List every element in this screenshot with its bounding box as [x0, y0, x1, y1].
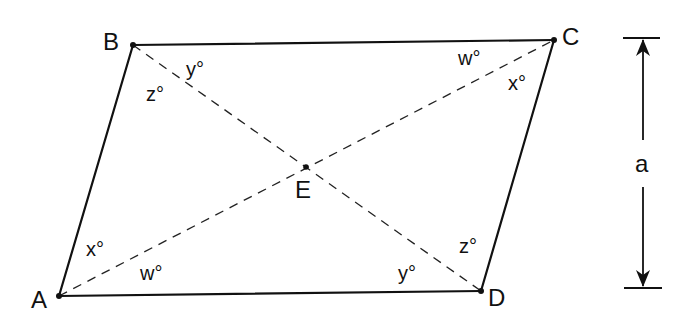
vertex-label-b: B [103, 28, 119, 55]
vertex-label-a: A [31, 286, 47, 313]
intersection-label-e: E [295, 176, 311, 203]
angle-label-c-x: x° [508, 72, 526, 94]
angle-label-d-y: y° [398, 262, 416, 284]
vertex-label-c: C [562, 23, 579, 50]
vertex-dot-b [130, 42, 136, 48]
height-label-a: a [635, 150, 649, 177]
vertex-dot-d [478, 288, 484, 294]
angle-label-b-y: y° [186, 58, 204, 80]
side-bc [133, 40, 554, 45]
side-da [59, 291, 481, 296]
vertex-dot-c [551, 37, 557, 43]
angle-label-b-z: z° [146, 83, 164, 105]
intersection-dot-e [303, 164, 309, 170]
angle-label-c-w: w° [457, 47, 480, 69]
vertex-label-d: D [488, 284, 505, 311]
angle-label-a-w: w° [139, 262, 162, 284]
vertex-dot-a [56, 293, 62, 299]
parallelogram-diagram: B C A D E y° z° w° x° x° w° y° z° a [0, 0, 696, 323]
angle-label-a-x: x° [86, 238, 104, 260]
angle-label-d-z: z° [459, 235, 477, 257]
vertex-dots [56, 37, 557, 299]
